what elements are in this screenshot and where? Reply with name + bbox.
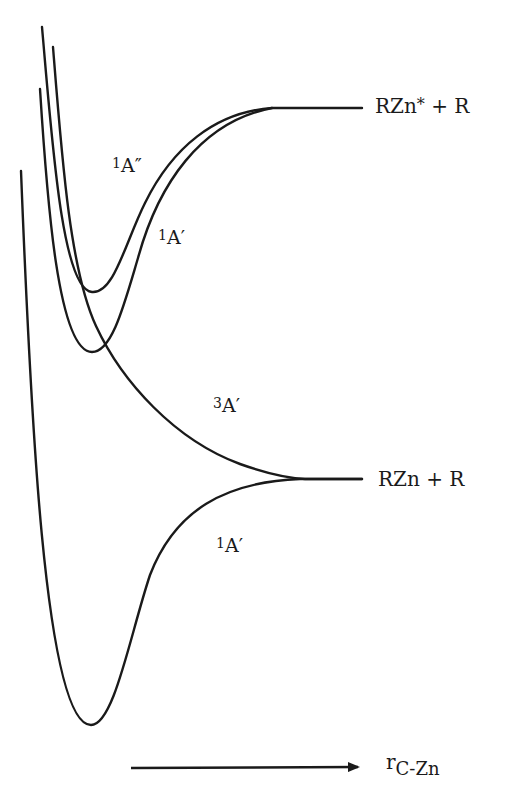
label-1A-prime-ground: 1A′ xyxy=(216,536,243,555)
curve-1A-prime-ground xyxy=(21,171,362,725)
asymptote-upper-label: RZn* + R xyxy=(375,96,469,116)
label-1A-prime-upper: 1A′ xyxy=(158,228,185,247)
label-3A-prime: 3A′ xyxy=(213,396,240,415)
asymptote-lower-label: RZn + R xyxy=(378,469,464,489)
axis-label-r-c-zn: rC-Zn xyxy=(386,752,440,772)
curve-1A-prime-upper xyxy=(40,89,272,352)
curve-1A-double-prime xyxy=(42,27,362,292)
potential-energy-diagram xyxy=(0,0,512,811)
r-axis-arrow xyxy=(131,767,358,768)
curve-3A-prime xyxy=(53,47,362,479)
label-1A-double-prime: 1A″ xyxy=(112,156,142,175)
